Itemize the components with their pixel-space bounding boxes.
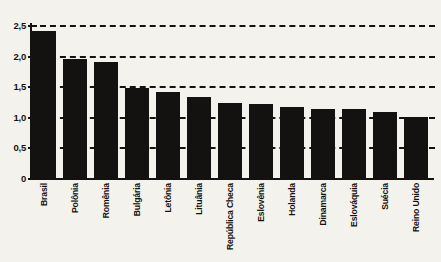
x-axis-tick-label: Polônia	[70, 183, 80, 213]
category-label-slot: Dinamarca	[311, 183, 335, 261]
bar	[280, 107, 304, 178]
bar	[218, 103, 242, 178]
y-axis-tick	[28, 147, 37, 149]
x-axis-tick-label: Dinamarca	[318, 183, 328, 226]
x-axis-tick-label: Holanda	[287, 183, 297, 216]
y-axis-tick	[28, 86, 37, 88]
y-axis	[30, 23, 32, 180]
category-label-slot: Holanda	[280, 183, 304, 261]
bar-series	[30, 25, 433, 178]
bar	[63, 59, 87, 178]
category-label-slot: República Checa	[218, 183, 242, 261]
bar	[32, 31, 56, 178]
y-axis-tick-label: 0	[0, 173, 26, 184]
bar	[125, 88, 149, 178]
bar	[342, 109, 366, 178]
x-axis-tick-label: Lituânia	[194, 183, 204, 215]
x-axis-tick-label: Reino Unido	[411, 183, 421, 232]
bar	[373, 112, 397, 178]
y-axis-tick-label: 0,5	[0, 142, 26, 153]
category-label-slot: Bulgária	[125, 183, 149, 261]
category-label-slot: Romênia	[94, 183, 118, 261]
y-axis-tick	[28, 56, 37, 58]
bar	[156, 92, 180, 178]
category-label-slot: Suécia	[373, 183, 397, 261]
category-label-slot: Eslovênia	[249, 183, 273, 261]
bar	[187, 97, 211, 178]
category-label-slot: Polônia	[63, 183, 87, 261]
y-axis-tick-label: 1,0	[0, 111, 26, 122]
x-axis-tick-label: Bulgária	[132, 183, 142, 216]
y-axis-tick-label: 2,5	[0, 20, 26, 31]
bar	[311, 109, 335, 178]
x-axis-tick-label: Brasil	[39, 183, 49, 206]
bar	[94, 62, 118, 178]
x-axis-tick-label: Romênia	[101, 183, 111, 218]
bar	[404, 117, 428, 178]
y-axis-tick-label: 2,0	[0, 50, 26, 61]
x-axis-tick-label: República Checa	[225, 183, 235, 250]
x-axis	[29, 178, 434, 180]
category-label-slot: Reino Unido	[404, 183, 428, 261]
bar-chart: 00,51,01,52,02,5 BrasilPolôniaRomêniaBul…	[0, 0, 441, 262]
x-axis-tick-labels: BrasilPolôniaRomêniaBulgáriaLetôniaLituâ…	[30, 183, 433, 261]
category-label-slot: Lituânia	[187, 183, 211, 261]
y-axis-tick-label: 1,5	[0, 81, 26, 92]
y-axis-tick	[28, 117, 37, 119]
bar	[249, 104, 273, 178]
x-axis-tick-label: Letônia	[163, 183, 173, 213]
y-axis-tick	[28, 25, 37, 27]
x-axis-tick-label: Eslovênia	[256, 183, 266, 222]
x-axis-tick-label: Eslováquia	[349, 183, 359, 227]
category-label-slot: Eslováquia	[342, 183, 366, 261]
category-label-slot: Letônia	[156, 183, 180, 261]
x-axis-tick-label: Suécia	[380, 183, 390, 210]
category-label-slot: Brasil	[32, 183, 56, 261]
